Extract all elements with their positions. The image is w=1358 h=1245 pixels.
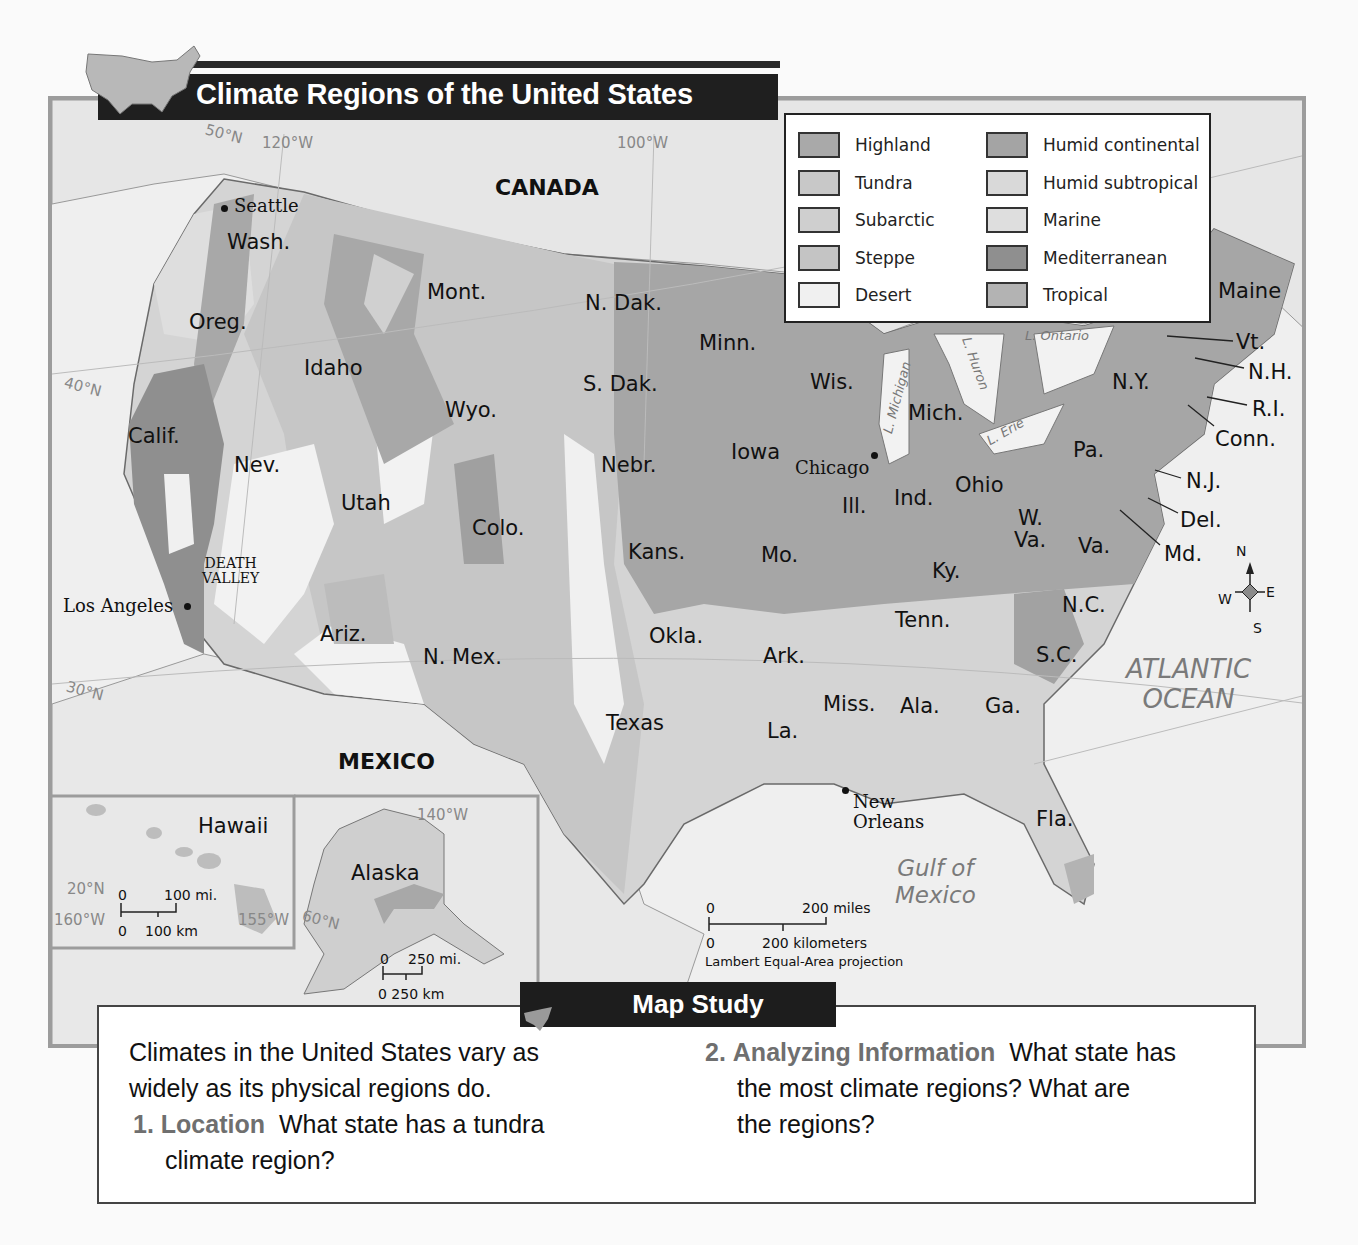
scale-mi-label: 200 miles xyxy=(802,900,871,916)
question-2-label: Analyzing Information xyxy=(733,1038,996,1066)
us-mini-icon xyxy=(522,1005,556,1035)
hawaii-scale-mi-label: 100 mi. xyxy=(164,887,217,903)
projection-label: Lambert Equal-Area projection xyxy=(705,954,903,969)
scale-bar-alaska xyxy=(382,966,427,982)
compass-s: S xyxy=(1253,620,1262,636)
hawaii-scale-mi-zero: 0 xyxy=(118,887,127,903)
map-study-tab: Map Study xyxy=(520,982,836,1027)
scale-km-zero: 0 xyxy=(706,935,715,951)
question-1-label: Location xyxy=(161,1110,265,1138)
scale-mi-zero: 0 xyxy=(706,900,715,916)
scale-bar-hawaii xyxy=(120,903,180,919)
alaska-scale-km-label: 0 250 km xyxy=(378,986,444,1002)
compass-n: N xyxy=(1236,543,1246,559)
hawaii-scale-km-label: 100 km xyxy=(145,923,198,939)
hawaii-scale-km-zero: 0 xyxy=(118,923,127,939)
compass-e: E xyxy=(1266,584,1275,600)
compass-w: W xyxy=(1218,591,1232,607)
scale-bar-main xyxy=(708,917,828,933)
map-study-intro: Climates in the United States vary as wi… xyxy=(129,1034,539,1106)
scale-km-label: 200 kilometers xyxy=(762,935,867,951)
question-2: 2. Analyzing Information What state has … xyxy=(705,1034,1176,1142)
alaska-scale-mi-label: 250 mi. xyxy=(408,951,461,967)
question-1: 1. Location What state has a tundra clim… xyxy=(133,1106,544,1178)
alaska-scale-mi-zero: 0 xyxy=(380,951,389,967)
